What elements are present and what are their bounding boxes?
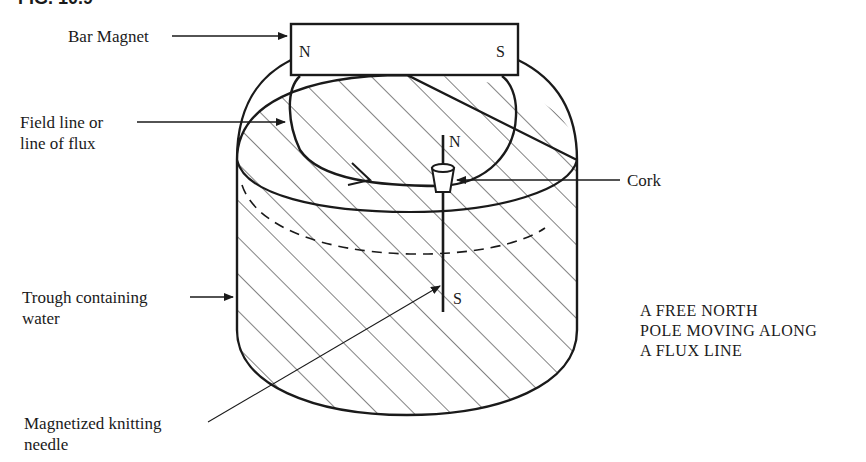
magnet-north-pole-label: N [299, 43, 311, 61]
trough-label: Trough containing water [22, 287, 147, 329]
cork-label: Cork [627, 170, 661, 191]
bar-magnet [291, 24, 518, 75]
needle-north-pole-label: N [449, 133, 461, 151]
magnet-south-pole-label: S [496, 43, 505, 61]
needle-south-pole-label: S [453, 290, 462, 308]
bar-magnet-label: Bar Magnet [68, 26, 149, 47]
diagram-canvas [0, 0, 866, 462]
figure-number-partial: FIG. 10.9 [18, 0, 93, 7]
needle-label: Magnetized knitting needle [24, 413, 161, 455]
figure-title: A FREE NORTH POLE MOVING ALONG A FLUX LI… [640, 301, 817, 361]
field-line-label: Field line or line of flux [20, 112, 103, 154]
cork [432, 164, 454, 192]
